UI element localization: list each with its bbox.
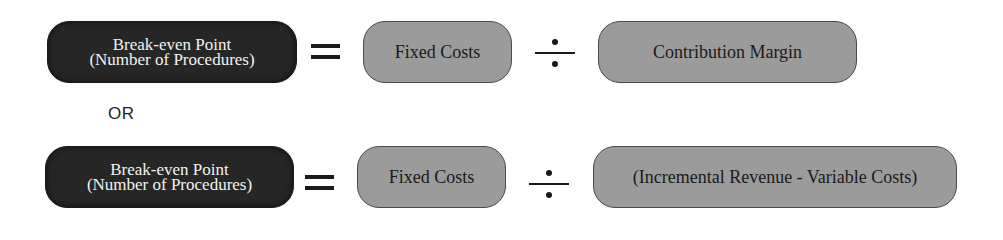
break-even-point-box: Break-even Point (Number of Procedures) xyxy=(45,146,294,208)
divide-icon xyxy=(529,170,569,198)
fixed-costs-box: Fixed Costs xyxy=(363,21,512,83)
fixed-costs-label: Fixed Costs xyxy=(395,45,481,60)
break-even-point-box: Break-even Point (Number of Procedures) xyxy=(47,21,297,83)
contribution-margin-box: Contribution Margin xyxy=(598,21,857,83)
number-of-procedures-label: (Number of Procedures) xyxy=(87,177,252,192)
equals-icon xyxy=(305,175,334,193)
incremental-revenue-minus-variable-costs-label: (Incremental Revenue - Variable Costs) xyxy=(633,170,918,185)
fixed-costs-box: Fixed Costs xyxy=(357,146,506,208)
or-separator: OR xyxy=(108,104,135,124)
contribution-margin-label: Contribution Margin xyxy=(653,45,802,60)
equals-icon xyxy=(311,44,340,62)
fixed-costs-label: Fixed Costs xyxy=(389,170,475,185)
number-of-procedures-label: (Number of Procedures) xyxy=(89,52,254,67)
incremental-revenue-minus-variable-costs-box: (Incremental Revenue - Variable Costs) xyxy=(593,146,957,208)
divide-icon xyxy=(535,39,575,67)
